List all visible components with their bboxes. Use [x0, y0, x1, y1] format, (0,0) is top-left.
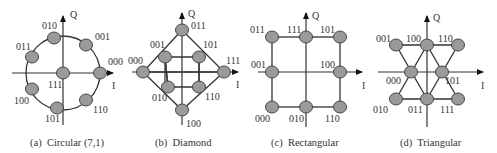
panel-rectangular: Q I 011111101001100000010110 (c) Rectang…: [250, 10, 365, 149]
constellation-point: [300, 101, 313, 113]
caption-triangular: (d) Triangular: [400, 137, 462, 149]
point-label: 101: [445, 75, 460, 86]
point-label: 010: [42, 20, 57, 31]
constellation-point: [334, 66, 347, 78]
panel-circular: Q I 010001000110101100011111 (a) Circula…: [12, 9, 123, 149]
i-axis-label: I: [112, 80, 115, 91]
constellation-point: [80, 94, 93, 106]
point-label: 101: [320, 24, 335, 35]
constellation-point: [334, 31, 347, 43]
constellation-point: [176, 24, 189, 36]
panel-triangular: Q I 001100110000101010011111 (d) Triangu…: [373, 12, 484, 149]
constellation-point: [390, 39, 403, 51]
constellation-point: [266, 31, 279, 43]
panel-diamond: Q I 011001101000111010110100 (b) Diamond: [128, 8, 240, 149]
point-label: 101: [203, 39, 218, 50]
i-axis-label: I: [236, 79, 239, 90]
constellation-point: [193, 81, 206, 93]
point-label: 100: [406, 33, 421, 44]
constellation-point: [300, 31, 313, 43]
point-label: 001: [95, 31, 110, 42]
q-axis-label: Q: [312, 10, 320, 21]
constellation-point: [26, 83, 39, 95]
constellation-point: [390, 93, 403, 105]
point-label: 010: [289, 113, 304, 124]
point-label: 000: [386, 75, 401, 86]
constellation-point: [94, 67, 107, 79]
point-label: 110: [205, 91, 220, 102]
point-label: 101: [45, 113, 60, 124]
constellation-point: [266, 66, 279, 78]
point-label: 011: [408, 104, 423, 115]
point-label: 110: [438, 33, 453, 44]
point-label: 010: [152, 92, 167, 103]
point-label: 100: [320, 59, 335, 70]
constellation-point: [193, 51, 206, 63]
point-label: 000: [128, 55, 143, 66]
point-label: 111: [226, 55, 240, 66]
constellation-point: [57, 67, 70, 79]
point-label: 001: [376, 33, 391, 44]
q-axis-label: Q: [70, 9, 78, 20]
constellation-point: [80, 39, 93, 51]
point-label: 111: [440, 104, 454, 115]
constellation-point: [452, 39, 465, 51]
constellation-point: [334, 101, 347, 113]
constellation-point: [48, 32, 61, 44]
constellation-point: [176, 104, 189, 116]
point-label: 011: [250, 24, 265, 35]
point-label: 011: [16, 41, 31, 52]
caption-diamond: (b) Diamond: [155, 137, 212, 149]
q-axis-label: Q: [433, 12, 441, 23]
point-label: 001: [251, 59, 266, 70]
constellation-point: [266, 101, 279, 113]
constellation-point: [159, 51, 172, 63]
point-label: 110: [325, 113, 340, 124]
point-label: 111: [48, 79, 62, 90]
q-axis-label: Q: [188, 8, 196, 19]
caption-circular: (a) Circular (7,1): [30, 137, 105, 149]
constellation-point: [218, 66, 231, 78]
point-label: 011: [191, 20, 206, 31]
point-label: 100: [186, 118, 201, 129]
caption-rectangular: (c) Rectangular: [271, 137, 339, 149]
constellation-point: [405, 66, 418, 78]
point-label: 110: [93, 104, 108, 115]
point-label: 100: [14, 95, 29, 106]
point-label: 010: [373, 104, 388, 115]
point-label: 000: [255, 113, 270, 124]
constellation-point: [137, 66, 150, 78]
constellation-figure: Q I 010001000110101100011111 (a) Circula…: [0, 0, 497, 153]
i-axis-label: I: [362, 80, 365, 91]
constellation-point: [421, 39, 434, 51]
point-label: 000: [108, 56, 123, 67]
point-label: 001: [150, 39, 165, 50]
i-axis-label: I: [481, 80, 484, 91]
point-label: 111: [287, 24, 301, 35]
constellation-point: [26, 51, 39, 63]
